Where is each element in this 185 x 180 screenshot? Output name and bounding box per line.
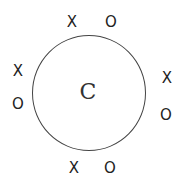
left-o-mark: O: [12, 97, 24, 112]
left-x-mark: X: [13, 64, 23, 79]
bottom-x-mark: X: [69, 161, 79, 176]
right-x-mark: X: [162, 71, 172, 86]
top-o-mark: O: [105, 15, 117, 30]
center-label: C: [80, 81, 97, 103]
top-x-mark: X: [67, 15, 77, 30]
right-o-mark: O: [160, 108, 172, 123]
bottom-o-mark: O: [104, 161, 116, 176]
